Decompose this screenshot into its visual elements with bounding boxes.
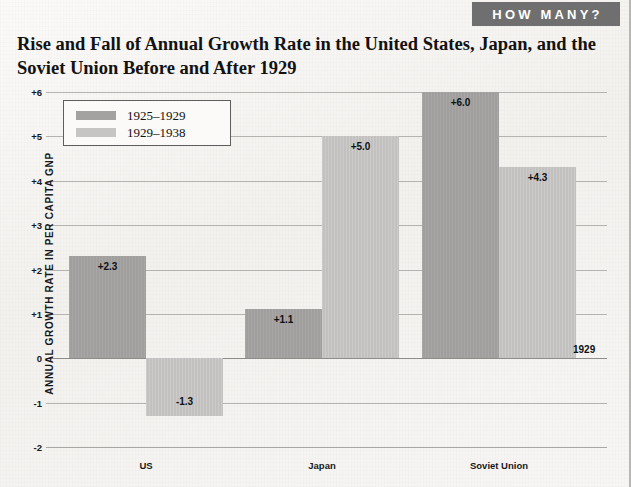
bar-soviet-union-1925–1929 (422, 92, 499, 358)
bar-value-label: +2.3 (98, 261, 118, 272)
section-banner: HOW MANY? (472, 2, 620, 26)
y-tick-label-2: +2 (2, 264, 42, 275)
legend-entry-2: 1929–1938 (76, 124, 230, 141)
gridline-0 (46, 358, 607, 359)
legend-label-1: 1925–1929 (127, 108, 186, 124)
bar-soviet-union-1929–1938 (499, 167, 576, 358)
gridline--2 (46, 447, 607, 448)
y-tick-label-4: +4 (2, 175, 42, 186)
legend-swatch-1 (76, 111, 116, 120)
gridline--1 (46, 403, 607, 404)
y-tick-label-5: +5 (2, 131, 42, 142)
y-tick-label--1: -1 (2, 397, 42, 408)
category-label-us: US (139, 460, 152, 471)
y-tick-label-1: +1 (2, 308, 42, 319)
gridline-6 (46, 92, 607, 93)
bar-value-label: +6.0 (451, 97, 471, 108)
bar-value-label: +4.3 (528, 172, 548, 183)
bar-japan-1929–1938 (322, 136, 399, 358)
y-tick-label--2: -2 (2, 442, 42, 453)
chart-page: HOW MANY? Rise and Fall of Annual Growth… (0, 0, 631, 487)
bar-us-1929–1938 (146, 358, 223, 416)
chart-legend: 1925–19291929–1938 (63, 100, 231, 146)
y-tick-label-3: +3 (2, 220, 42, 231)
category-label-soviet-union: Soviet Union (470, 460, 528, 471)
y-axis-label: ANNUAL GROWTH RATE IN PER CAPITA GNP (44, 39, 55, 487)
legend-label-2: 1929–1938 (127, 125, 186, 141)
bar-value-label: +5.0 (351, 141, 371, 152)
y-tick-label-0: 0 (2, 353, 42, 364)
y-tick-label-6: +6 (2, 87, 42, 98)
bar-value-label: -1.3 (176, 396, 193, 407)
legend-entry-1: 1925–1929 (76, 107, 230, 124)
category-label-japan: Japan (308, 460, 335, 471)
legend-swatch-2 (76, 128, 116, 137)
chart-title: Rise and Fall of Annual Growth Rate in t… (17, 32, 609, 81)
zero-line-annotation: 1929 (573, 344, 595, 355)
bar-value-label: +1.1 (274, 314, 294, 325)
